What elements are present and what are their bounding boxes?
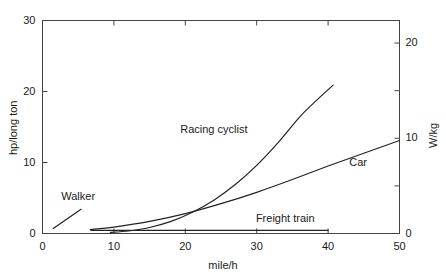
x-axis-title: mile/h xyxy=(0,260,446,271)
y-axis-left-tick-label: 10 xyxy=(0,157,36,168)
chart-plot-area xyxy=(0,0,446,274)
x-axis-tick-label: 20 xyxy=(175,241,195,252)
y-axis-right-tick-label: 10 xyxy=(406,132,418,143)
y-axis-right-title: W/kg xyxy=(428,123,439,148)
y-axis-left-tick-label: 20 xyxy=(0,86,36,97)
series-label-car: Car xyxy=(349,157,367,168)
y-axis-left-title: hp/long ton xyxy=(8,101,19,155)
x-axis-tick-label: 40 xyxy=(318,241,338,252)
y-axis-right-tick-label: 20 xyxy=(406,37,418,48)
series-lines xyxy=(53,85,399,232)
series-label-racing-cyclist: Racing cyclist xyxy=(180,124,247,135)
series-label-freight-train: Freight train xyxy=(256,213,315,224)
x-axis-tick-label: 30 xyxy=(247,241,267,252)
x-axis-tick-label: 50 xyxy=(390,241,410,252)
x-axis-tick-label: 0 xyxy=(33,241,53,252)
y-axis-left-tick-label: 0 xyxy=(0,228,36,239)
y-axis-left-tick-label: 30 xyxy=(0,15,36,26)
y-axis-right-tick-label: 0 xyxy=(406,228,412,239)
series-label-walker: Walker xyxy=(61,191,95,202)
chart-figure: 0 10 20 30 0 10 20 0 10 20 30 40 50 hp/l… xyxy=(0,0,446,274)
x-axis-tick-label: 10 xyxy=(104,241,124,252)
